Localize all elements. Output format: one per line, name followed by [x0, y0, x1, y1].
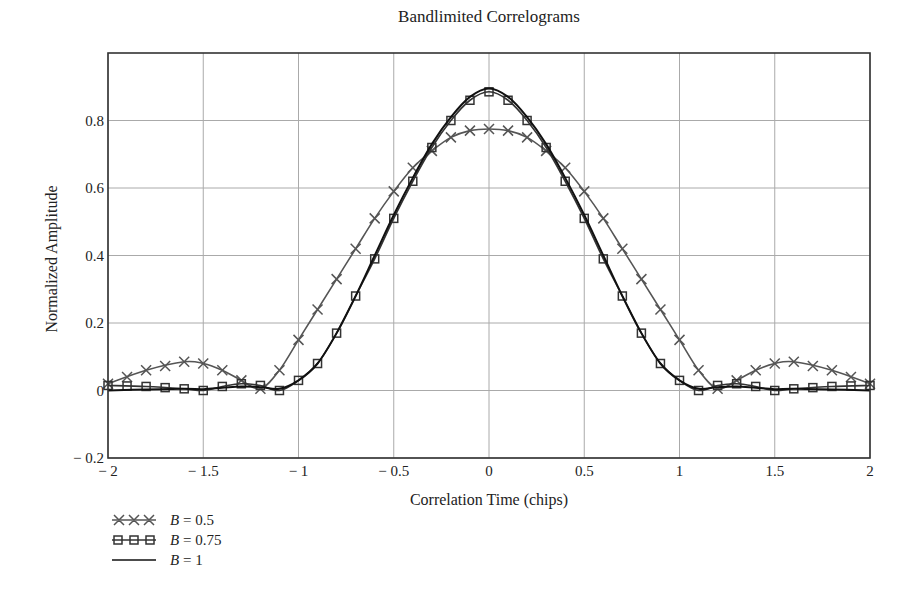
x-tick-label: − 1.5	[188, 463, 219, 479]
y-tick-label: 0	[97, 383, 105, 399]
y-tick-label: 0.8	[85, 113, 104, 129]
y-tick-label: 0.4	[85, 248, 104, 264]
x-tick-label: 0.5	[575, 463, 594, 479]
x-tick-label: − 1	[289, 463, 309, 479]
x-tick-label: 2	[866, 463, 874, 479]
x-marker-icon	[112, 513, 156, 527]
legend-item-b075: B = 0.75	[112, 530, 221, 550]
legend-item-b05: B = 0.5	[112, 510, 221, 530]
x-tick-label: 1.5	[765, 463, 784, 479]
legend: B = 0.5 B = 0.75 B = 1	[112, 510, 221, 570]
line-icon	[112, 553, 156, 567]
x-tick-label: − 0.5	[378, 463, 409, 479]
y-tick-label: 0.2	[85, 315, 104, 331]
x-tick-label: 1	[676, 463, 684, 479]
grid-lines	[108, 53, 870, 458]
square-marker-icon	[112, 533, 156, 547]
y-tick-label: − 0.2	[73, 450, 104, 466]
legend-item-b1: B = 1	[112, 550, 221, 570]
tick-labels: − 2− 1.5− 1− 0.500.511.52− 0.200.20.40.6…	[73, 113, 874, 480]
x-tick-label: 0	[485, 463, 493, 479]
y-tick-label: 0.6	[85, 180, 104, 196]
